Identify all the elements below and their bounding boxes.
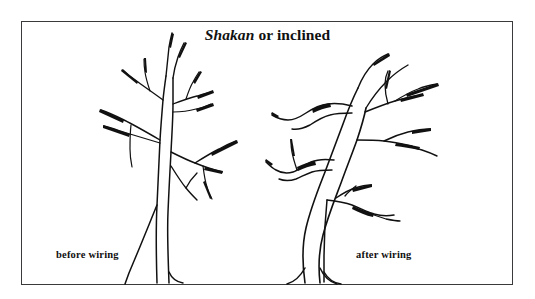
figure-title-rest: or inclined [254,26,330,43]
figure-root: Shakan or inclined before wiring after w… [0,0,535,299]
caption-before-wiring: before wiring [56,249,119,260]
caption-after-wiring: after wiring [356,249,412,260]
figure-title-term: Shakan [205,26,255,43]
figure-border [21,21,513,285]
figure-title: Shakan or inclined [0,26,535,44]
